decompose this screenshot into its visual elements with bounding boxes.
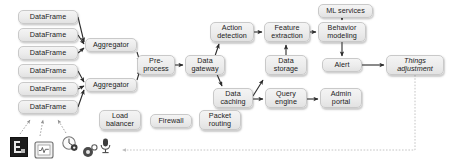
node-dataframe-3[interactable]: DataFrame xyxy=(18,46,78,60)
node-label: DataFrame xyxy=(30,49,66,57)
node-label: DataFrame xyxy=(30,31,66,39)
node-ml-services[interactable]: ML services xyxy=(318,4,373,18)
node-data-caching[interactable]: Data caching xyxy=(213,88,253,108)
node-label: DataFrame xyxy=(30,13,66,21)
node-dataframe-1[interactable]: DataFrame xyxy=(18,10,78,24)
node-label: Admin portal xyxy=(331,90,352,106)
node-packet-routing[interactable]: Packet routing xyxy=(199,110,241,130)
node-label: ML services xyxy=(326,7,365,15)
node-label: Load balancer xyxy=(106,112,134,128)
node-aggregator-2[interactable]: Aggregator xyxy=(85,78,137,92)
node-alert[interactable]: Alert xyxy=(322,58,362,72)
dashed-edges xyxy=(20,120,66,136)
node-data-storage[interactable]: Data storage xyxy=(265,55,307,75)
node-behavior-modeling[interactable]: Behavior modeling xyxy=(318,22,366,42)
node-pre-process[interactable]: Pre- process xyxy=(137,55,175,75)
node-label: Data gateway xyxy=(191,57,218,73)
node-data-gateway[interactable]: Data gateway xyxy=(185,55,225,75)
node-label: Aggregator xyxy=(93,41,129,49)
node-label: DataFrame xyxy=(30,103,66,111)
node-action-detection[interactable]: Action detection xyxy=(210,22,254,42)
node-firewall[interactable]: Firewall xyxy=(150,114,192,128)
node-label: Firewall xyxy=(158,117,183,125)
node-dataframe-2[interactable]: DataFrame xyxy=(18,28,78,42)
node-load-balancer[interactable]: Load balancer xyxy=(99,110,141,130)
node-label: Query engine xyxy=(275,90,297,106)
node-label: Data storage xyxy=(274,57,298,73)
gauge-sensor-icon xyxy=(61,135,79,153)
thermostat-icon xyxy=(34,141,54,159)
iot-device-icon xyxy=(10,137,28,157)
node-dataframe-6[interactable]: DataFrame xyxy=(18,100,78,114)
node-label: Packet routing xyxy=(209,112,231,128)
node-things-adjustment[interactable]: Things adjustment xyxy=(386,55,444,75)
node-label: Action detection xyxy=(217,24,247,40)
node-label: Pre- process xyxy=(143,57,169,73)
node-label: Behavior modeling xyxy=(327,24,357,40)
node-feature-extraction[interactable]: Feature extraction xyxy=(264,22,310,42)
microphone-sensor-icon xyxy=(99,137,112,155)
node-label: Aggregator xyxy=(93,81,129,89)
node-admin-portal[interactable]: Admin portal xyxy=(320,88,362,108)
node-label: Alert xyxy=(334,61,349,69)
node-label: Things adjustment xyxy=(397,57,433,73)
architecture-diagram: DataFrame DataFrame DataFrame DataFrame … xyxy=(0,0,451,165)
camera-sensor-icon xyxy=(82,144,99,158)
node-query-engine[interactable]: Query engine xyxy=(265,88,307,108)
node-label: Feature extraction xyxy=(271,24,303,40)
node-dataframe-4[interactable]: DataFrame xyxy=(18,64,78,78)
node-label: Data caching xyxy=(220,90,245,106)
node-label: DataFrame xyxy=(30,85,66,93)
node-aggregator-1[interactable]: Aggregator xyxy=(85,38,137,52)
node-label: DataFrame xyxy=(30,67,66,75)
node-dataframe-5[interactable]: DataFrame xyxy=(18,82,78,96)
